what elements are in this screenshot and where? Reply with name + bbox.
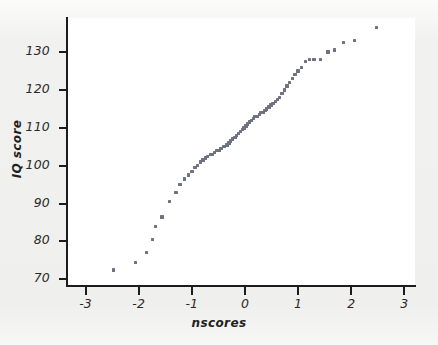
scatter-point [300,66,303,69]
y-axis-label: IQ score [10,99,24,199]
scatter-point [293,73,296,76]
y-axis-tick-label: 120 [8,81,50,96]
scatter-point [134,261,137,264]
y-axis-tick [59,127,67,129]
y-axis-tick-label: 130 [8,43,50,58]
scatter-point [112,268,115,271]
scatter-point [187,173,190,176]
plot-area [67,18,415,285]
scatter-point [168,200,171,203]
x-axis-tick-label: 2 [331,296,371,311]
y-axis-tick [59,165,67,167]
qq-plot-figure: 708090100110120130 -3-2-10123 IQ score n… [0,0,438,345]
scatter-point [280,92,283,95]
y-axis-tick-label: 80 [8,232,50,247]
y-axis-spine [66,17,68,286]
x-axis-tick [244,287,246,295]
scatter-point [291,77,294,80]
x-axis-tick [403,287,405,295]
scatter-point [353,39,356,42]
scatter-point [304,60,307,63]
x-axis-tick-label: -3 [66,296,106,311]
scatter-point [326,50,329,53]
y-axis-tick [59,203,67,205]
y-axis-tick-label: 70 [8,270,50,285]
scatter-point [375,26,378,29]
scatter-point [333,48,336,51]
scatter-point [278,96,281,99]
scatter-point [160,215,163,218]
scatter-point [288,81,291,84]
scatter-point [183,177,186,180]
y-axis-tick [59,51,67,53]
scatter-point [296,69,299,72]
scatter-point [283,88,286,91]
x-axis-tick [138,287,140,295]
scatter-point [312,58,315,61]
scatter-point [190,170,193,173]
x-axis-tick [297,287,299,295]
y-axis-tick [59,278,67,280]
x-axis-spine [66,285,416,287]
x-axis-tick-label: 0 [225,296,265,311]
x-axis-label: nscores [0,316,438,330]
x-axis-tick-label: -2 [119,296,159,311]
y-axis-tick [59,240,67,242]
scatter-point [174,191,177,194]
y-axis-tick [59,89,67,91]
x-axis-tick-label: -1 [172,296,212,311]
scatter-point [151,238,154,241]
scatter-point [154,225,157,228]
scatter-point [285,84,288,87]
x-axis-tick [191,287,193,295]
x-axis-tick [85,287,87,295]
scatter-point [178,183,181,186]
scatter-point [342,41,345,44]
x-axis-tick [350,287,352,295]
x-axis-tick-label: 3 [384,296,424,311]
x-axis-tick-label: 1 [278,296,318,311]
scatter-point [319,58,322,61]
